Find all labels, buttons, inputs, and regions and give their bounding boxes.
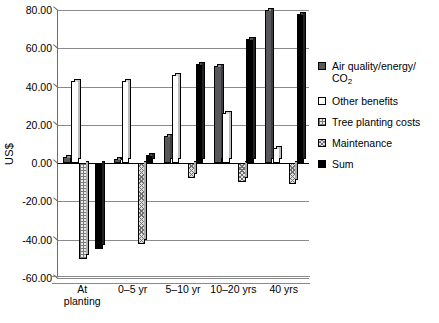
bar-side-cap bbox=[245, 161, 248, 178]
bar bbox=[238, 163, 246, 182]
bar-group bbox=[107, 10, 157, 278]
bar bbox=[146, 155, 154, 163]
bar-side-cap bbox=[303, 12, 306, 159]
x-axis-tick-labels: At planting0–5 yr5–10 yr10–20 yrs40 yrs bbox=[57, 283, 309, 319]
bar bbox=[289, 163, 297, 184]
bar-side-cap bbox=[194, 161, 197, 174]
y-tick-label: -20.00 bbox=[4, 196, 52, 206]
bar bbox=[164, 136, 172, 163]
bar bbox=[122, 81, 130, 163]
y-tick-label: 0.00 bbox=[4, 158, 52, 168]
bar-side-cap bbox=[144, 161, 147, 239]
bar-group bbox=[57, 10, 107, 278]
chart-legend: Air quality/energy/CO2Other benefitsTree… bbox=[318, 60, 439, 179]
bar bbox=[114, 159, 122, 163]
y-tick-label: 60.00 bbox=[4, 43, 52, 53]
bar bbox=[79, 163, 87, 259]
bar bbox=[265, 10, 273, 163]
bar-side-cap bbox=[102, 161, 105, 245]
bar bbox=[138, 163, 146, 243]
bar-side-cap bbox=[78, 79, 81, 159]
bar-side-cap bbox=[229, 111, 232, 159]
legend-item[interactable]: Maintenance bbox=[318, 137, 439, 149]
bar bbox=[188, 163, 196, 178]
x-tick-label: 40 yrs bbox=[251, 283, 317, 295]
legend-swatch bbox=[318, 160, 326, 168]
legend-swatch bbox=[318, 139, 326, 147]
legend-item[interactable]: Sum bbox=[318, 158, 439, 170]
bar bbox=[63, 157, 71, 163]
bar-chart: US$ 80.0060.0040.0020.000.00-20.00-40.00… bbox=[0, 0, 439, 323]
bar-side-cap bbox=[86, 161, 89, 255]
y-tick-label: 40.00 bbox=[4, 82, 52, 92]
bar bbox=[246, 39, 254, 163]
bar bbox=[196, 64, 204, 164]
y-tick-label: -60.00 bbox=[4, 273, 52, 283]
bar-group bbox=[259, 10, 309, 278]
bar-side-cap bbox=[279, 146, 282, 159]
legend-label: Air quality/energy/CO2 bbox=[332, 60, 416, 86]
gridline bbox=[57, 278, 309, 279]
y-tick-label: 20.00 bbox=[4, 120, 52, 130]
bar-side-cap bbox=[202, 62, 205, 160]
bar bbox=[172, 75, 180, 163]
legend-label: Tree planting costs bbox=[332, 116, 420, 128]
legend-swatch bbox=[318, 118, 326, 126]
legend-label: Maintenance bbox=[332, 137, 392, 149]
legend-item[interactable]: Tree planting costs bbox=[318, 116, 439, 128]
y-tick-label: 80.00 bbox=[4, 5, 52, 15]
bar bbox=[273, 148, 281, 163]
bar-side-cap bbox=[271, 8, 274, 159]
bar bbox=[297, 14, 305, 163]
legend-item[interactable]: Air quality/energy/CO2 bbox=[318, 60, 439, 86]
plot-area bbox=[57, 10, 309, 278]
legend-label: Sum bbox=[332, 158, 354, 170]
legend-item[interactable]: Other benefits bbox=[318, 95, 439, 107]
bar bbox=[222, 113, 230, 163]
bar-side-cap bbox=[152, 153, 155, 159]
bar-group bbox=[158, 10, 208, 278]
bar bbox=[71, 81, 79, 163]
legend-swatch bbox=[318, 62, 326, 70]
bar bbox=[214, 66, 222, 164]
legend-label: Other benefits bbox=[332, 95, 398, 107]
bar-side-cap bbox=[295, 161, 298, 180]
y-tick-label: -40.00 bbox=[4, 235, 52, 245]
bar-group bbox=[208, 10, 258, 278]
bar-side-cap bbox=[128, 79, 131, 159]
y-axis-tick-labels: 80.0060.0040.0020.000.00-20.00-40.00-60.… bbox=[0, 0, 52, 323]
bar-side-cap bbox=[178, 73, 181, 159]
legend-swatch bbox=[318, 97, 326, 105]
bar-side-cap bbox=[253, 37, 256, 159]
bar bbox=[95, 163, 103, 249]
